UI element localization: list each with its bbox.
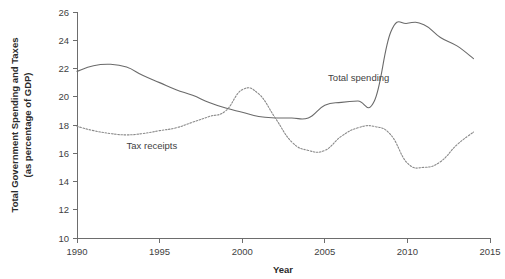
y-axis-title-line2: (as percentage of GDP)	[22, 72, 33, 177]
x-tick-label: 2000	[232, 246, 253, 257]
line-chart: 101214161820222426 199019952000200520102…	[0, 0, 505, 279]
y-tick-label: 24	[58, 35, 69, 46]
x-tick-label: 2005	[314, 246, 335, 257]
y-tick-label: 12	[58, 204, 69, 215]
x-tick-label: 1995	[149, 246, 170, 257]
y-tick-label: 20	[58, 91, 69, 102]
y-axis-title-line1: Total Government Spending and Taxes	[9, 38, 20, 213]
y-tick-label: 18	[58, 120, 69, 131]
series-line-total-spending	[77, 22, 473, 119]
y-axis-ticks: 101214161820222426	[58, 7, 77, 244]
y-tick-label: 22	[58, 63, 69, 74]
y-tick-label: 16	[58, 148, 69, 159]
series-label-total-spending: Total spending	[328, 72, 389, 83]
x-axis-title: Year	[273, 264, 293, 275]
x-tick-label: 1990	[66, 246, 87, 257]
series-line-tax-receipts	[77, 88, 473, 168]
x-axis-ticks: 199019952000200520102015	[66, 238, 500, 257]
x-tick-label: 2015	[479, 246, 500, 257]
series-label-tax-receipts: Tax receipts	[127, 140, 178, 151]
x-tick-label: 2010	[397, 246, 418, 257]
y-tick-label: 26	[58, 7, 69, 18]
chart-container: 101214161820222426 199019952000200520102…	[0, 0, 505, 279]
y-tick-label: 14	[58, 176, 69, 187]
y-tick-label: 10	[58, 233, 69, 244]
